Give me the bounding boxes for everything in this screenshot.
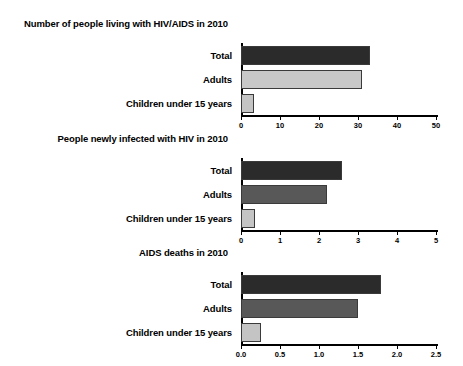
axis-tick [280,117,281,121]
axis-tick [397,232,398,236]
axis-tick-label: 2 [317,236,321,245]
axis-tick-label: 0 [239,236,243,245]
axis-tick-label: 5 [434,236,438,245]
chart-title: Number of people living with HIV/AIDS in… [0,18,228,29]
x-axis-line [241,344,438,346]
axis-tick-label: 30 [354,121,362,130]
bar [241,161,342,180]
axis-tick [241,346,242,350]
axis-tick-label: 40 [393,121,401,130]
axis-tick [319,117,320,121]
axis-tick [358,117,359,121]
axis-tick-label: 4 [395,236,399,245]
axis-tick-label: 0.5 [275,350,285,359]
axis-tick [241,117,242,121]
axis-tick-label: 2.5 [431,350,441,359]
bar [241,323,261,342]
axis-tick-label: 20 [315,121,323,130]
axis-tick-label: 1 [278,236,282,245]
axis-tick-label: 10 [276,121,284,130]
axis-tick [436,232,437,236]
chart-title: People newly infected with HIV in 2010 [0,133,228,144]
bar [241,275,381,294]
category-label: Adults [4,303,232,314]
axis-tick-label: 3 [356,236,360,245]
axis-tick [397,346,398,350]
axis-tick [358,346,359,350]
x-axis-line [241,115,438,117]
axis-tick [280,232,281,236]
figure-root: Number of people living with HIV/AIDS in… [0,0,463,366]
bar [241,299,358,318]
category-label: Children under 15 years [4,98,232,109]
axis-tick-label: 0 [239,121,243,130]
category-label: Children under 15 years [4,327,232,338]
axis-tick [358,232,359,236]
axis-tick [241,232,242,236]
bar [241,185,327,204]
axis-tick-label: 50 [432,121,440,130]
axis-tick-label: 1.5 [353,350,363,359]
chart-title: AIDS deaths in 2010 [0,247,228,258]
bar [241,94,254,113]
axis-tick [319,346,320,350]
axis-tick-label: 0.0 [236,350,246,359]
category-label: Total [4,165,232,176]
bar [241,70,362,89]
category-label: Total [4,50,232,61]
category-label: Adults [4,74,232,85]
axis-tick [280,346,281,350]
axis-tick [397,117,398,121]
axis-tick-label: 1.0 [314,350,324,359]
category-label: Children under 15 years [4,213,232,224]
category-label: Total [4,279,232,290]
x-axis-line [241,230,438,232]
axis-tick-label: 2.0 [392,350,402,359]
category-label: Adults [4,189,232,200]
axis-tick [436,346,437,350]
bar [241,46,370,65]
axis-tick [436,117,437,121]
axis-tick [319,232,320,236]
bar [241,209,255,228]
